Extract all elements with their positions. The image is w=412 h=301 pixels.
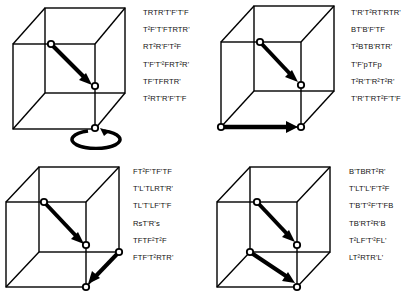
algorithm: T'F'pTFp <box>351 56 401 73</box>
algorithm: T²RT'R'F'T'F <box>143 90 190 107</box>
algorithm: T'B'T'²F'T'FB <box>349 197 393 214</box>
algorithm-list: TRTR'T'F'T'F T²F'T'FTRTR' RT²R'F'T²F T'F… <box>143 4 190 107</box>
algorithm: T²F'T'FTRTR' <box>143 21 190 38</box>
algorithm-list: T'R'T²RT'RTR' BT'B'F'TF T²BTB'RTR' T'F'p… <box>351 4 401 107</box>
panel-top-left: TRTR'T'F'T'F T²F'T'FTRTR' RT²R'F'T²F T'F… <box>0 0 206 150</box>
algorithm: RT²R'F'T²F <box>143 38 190 55</box>
algorithm: T²BTB'RTR' <box>351 38 401 55</box>
algorithm-list: FT²F'TF'TF T'L'TLRT'R' TL'T'LF'T'F RsT'R… <box>133 163 173 266</box>
panel-top-right: T'R'T²RT'RTR' BT'B'F'TF T²BTB'RTR' T'F'p… <box>206 0 412 150</box>
algorithm: BT'B'F'TF <box>351 21 401 38</box>
algorithm: TRTR'T'F'T'F <box>143 4 190 21</box>
algorithm-list: B'TBRT²R' T'LT'L'F'T²F T'B'T'²F'T'FB TB'… <box>349 163 393 266</box>
algorithm: T²R'T'R²T²R' <box>351 73 401 90</box>
cube-diagram-corner-swap <box>0 150 206 301</box>
panel-bottom-left: FT²F'TF'TF T'L'TLRT'R' TL'T'LF'T'F RsT'R… <box>0 150 206 300</box>
algorithm: TL'T'LF'T'F <box>133 197 173 214</box>
center-node <box>92 83 98 89</box>
algorithm: B'TBRT²R' <box>349 163 393 180</box>
algorithm: FT²F'TF'TF <box>133 163 173 180</box>
algorithm: LT²RTR'L' <box>349 249 393 266</box>
algorithm: T'R'T'RT²F'T'F <box>351 90 401 107</box>
algorithm: TB'RT²R'B <box>349 215 393 232</box>
panel-bottom-right: B'TBRT²R' T'LT'L'F'T²F T'B'T'²F'T'FB TB'… <box>206 150 412 300</box>
start-node <box>48 41 54 47</box>
algorithm: TF'TFRTR' <box>143 73 190 90</box>
algorithm: T'LT'L'F'T²F <box>349 180 393 197</box>
algorithm: RsT'R's <box>133 215 173 232</box>
algorithm: T'L'TLRT'R' <box>133 180 173 197</box>
algorithm: FTF'T²RTR' <box>133 249 173 266</box>
algorithm: T²LF'T'²FL' <box>349 232 393 249</box>
algorithm: TFTF²T²F <box>133 232 173 249</box>
bottom-node <box>92 125 98 131</box>
algorithm: T'R'T²RT'RTR' <box>351 4 401 21</box>
algorithm: T'F'T'²FRT²R' <box>143 56 190 73</box>
